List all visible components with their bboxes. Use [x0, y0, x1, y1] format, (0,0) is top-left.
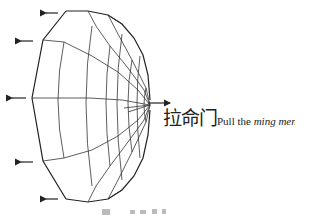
pull-ming-men-label: 拉命门Pull the ming men — [163, 103, 295, 130]
figure-caption — [100, 207, 190, 217]
label-english-prefix: Pull the — [217, 115, 254, 127]
dome-meridians — [32, 11, 150, 202]
label-english-italic: ming men — [254, 115, 295, 127]
label-chinese: 拉命门 — [163, 107, 217, 129]
dome-outline — [32, 11, 150, 202]
